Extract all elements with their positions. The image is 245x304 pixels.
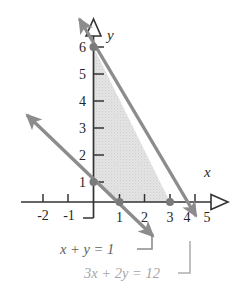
vertex-point-0-1 xyxy=(90,178,98,186)
y-axis-label: y xyxy=(105,27,114,43)
y-tick-label-1: 1 xyxy=(79,175,86,190)
leader-line-equation-2 xyxy=(178,241,190,273)
x-tick-label--2: -2 xyxy=(37,208,49,223)
vertex-point-1-0 xyxy=(116,198,124,206)
x-tick-label--1: -1 xyxy=(63,208,75,223)
y-tick-label-4: 4 xyxy=(79,94,86,109)
x-tick-label-2: 2 xyxy=(141,210,148,225)
coordinate-plane-svg: x y -2 -1 1 2 3 4 5 1 2 3 4 5 6 x + y = … xyxy=(0,0,245,304)
x-tick-label-3: 3 xyxy=(167,210,174,225)
y-tick-label-2: 2 xyxy=(79,148,86,163)
vertex-point-0-6 xyxy=(90,43,98,51)
vertex-point-4-0 xyxy=(166,198,174,206)
y-tick-label-6: 6 xyxy=(79,40,86,55)
y-tick-label-3: 3 xyxy=(79,121,86,136)
equation-label-2: 3x + 2y = 12 xyxy=(83,265,160,281)
equation-label-1: x + y = 1 xyxy=(59,241,114,257)
y-tick-label-5: 5 xyxy=(79,67,86,82)
shaded-feasible-region xyxy=(94,47,171,202)
linear-programming-graph: x y -2 -1 1 2 3 4 5 1 2 3 4 5 6 x + y = … xyxy=(0,0,245,304)
leader-line-equation-1 xyxy=(137,233,152,249)
x-tick-label-4: 4 xyxy=(184,210,191,225)
x-tick-label-1: 1 xyxy=(116,210,123,225)
x-axis-label: x xyxy=(203,164,211,180)
x-tick-label-5: 5 xyxy=(204,210,211,225)
